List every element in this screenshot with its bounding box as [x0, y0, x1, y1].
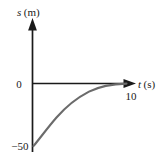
x-tick-label-10: 10 [126, 90, 138, 102]
y-axis-label-unit: (m) [24, 6, 40, 19]
y-axis-label-variable: s [17, 6, 21, 18]
y-tick-label-minus-50: −50 [11, 140, 29, 152]
x-axis-label: t(s) [138, 78, 156, 91]
x-axis-label-unit: (s) [144, 78, 156, 91]
graph-canvas: s(m) t(s) 0 10 −50 [0, 0, 164, 155]
y-tick-label-zero: 0 [16, 78, 22, 90]
position-time-graph-figure: s(m) t(s) 0 10 −50 [0, 0, 164, 155]
y-axis-label: s(m) [17, 6, 40, 19]
